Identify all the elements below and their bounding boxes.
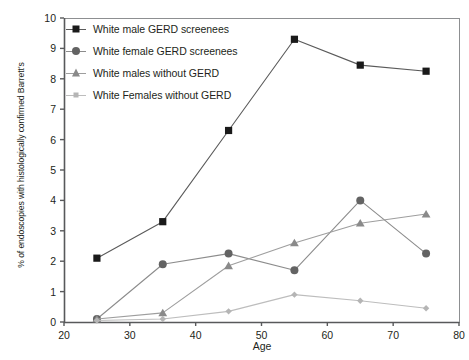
legend-marker-diamond-icon <box>66 89 86 101</box>
data-point-marker <box>225 308 231 314</box>
data-point-marker <box>356 196 364 204</box>
legend-label-0: White male GERD screenees <box>93 23 229 35</box>
data-point-marker <box>357 62 364 69</box>
legend-marker-square-icon <box>66 23 86 35</box>
legend-marker-shape <box>72 69 80 77</box>
legend-marker-circle-icon <box>66 45 86 57</box>
series-2 <box>93 196 430 323</box>
data-point-marker <box>422 250 430 258</box>
series-3 <box>93 210 431 322</box>
data-point-marker <box>290 266 298 274</box>
data-point-marker <box>159 218 166 225</box>
legend-label-3: White Females without GERD <box>93 89 231 101</box>
legend-item-3: White Females without GERD <box>66 84 266 106</box>
data-point-marker <box>357 298 363 304</box>
legend-item-0: White male GERD screenees <box>66 18 266 40</box>
data-point-marker <box>422 210 431 218</box>
data-point-marker <box>225 250 233 258</box>
data-point-marker <box>422 68 429 75</box>
legend-item-1: White female GERD screenees <box>66 40 266 62</box>
legend-label-2: White males without GERD <box>93 67 219 79</box>
data-point-marker <box>93 255 100 262</box>
legend-marker-triangle-icon <box>66 67 86 79</box>
legend-marker-shape <box>74 93 79 98</box>
legend-marker-shape <box>73 26 80 33</box>
data-point-marker <box>224 262 233 270</box>
legend-item-2: White males without GERD <box>66 62 266 84</box>
data-point-marker <box>158 309 167 317</box>
data-point-marker <box>291 291 297 297</box>
data-point-marker <box>160 316 166 322</box>
series-line <box>97 295 426 321</box>
chart-container: % of endoscopies with histologically con… <box>0 0 469 360</box>
data-point-marker <box>423 305 429 311</box>
data-point-marker <box>159 260 167 268</box>
data-point-marker <box>225 127 232 134</box>
data-point-marker <box>291 36 298 43</box>
series-line <box>97 200 426 319</box>
series-4 <box>94 291 430 323</box>
chart-legend: White male GERD screenees White female G… <box>66 18 266 106</box>
legend-marker-shape <box>72 47 80 55</box>
legend-label-1: White female GERD screenees <box>93 45 238 57</box>
